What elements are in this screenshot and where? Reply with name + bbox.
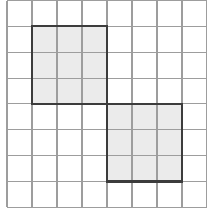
grid-figure [0,0,207,212]
grid-canvas [0,0,207,212]
shaded-square-top-left-fill [32,26,107,104]
shaded-square-bottom-right-fill [107,104,182,182]
